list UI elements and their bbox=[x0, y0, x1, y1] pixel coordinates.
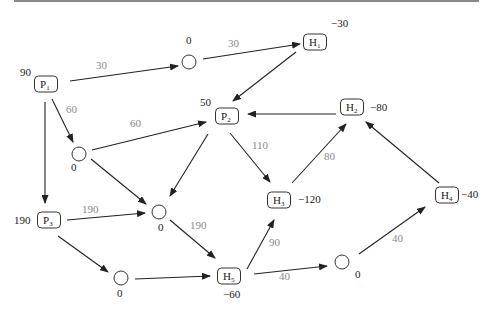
edge-t5-h4 bbox=[359, 207, 425, 254]
edge-label: 40 bbox=[392, 232, 404, 244]
transshipment-circle-icon bbox=[335, 255, 349, 269]
node-value: 0 bbox=[355, 268, 361, 280]
node-value: 0 bbox=[117, 287, 123, 299]
transshipment-circle-icon bbox=[152, 205, 166, 219]
node-p2: P250 bbox=[200, 96, 239, 124]
edge-label: 60 bbox=[66, 103, 78, 115]
node-h5: H5−60 bbox=[218, 268, 241, 300]
edge-label: 60 bbox=[130, 117, 142, 129]
edge-p3-t4 bbox=[58, 236, 108, 272]
node-t2: 0 bbox=[71, 147, 86, 173]
edge-label: 30 bbox=[96, 59, 108, 71]
node-value: −80 bbox=[370, 101, 388, 113]
transshipment-circle-icon bbox=[182, 55, 196, 69]
node-value: 50 bbox=[200, 96, 212, 108]
edge-h5-t5 bbox=[254, 266, 327, 274]
node-value: −40 bbox=[461, 188, 479, 200]
node-t1: 0 bbox=[182, 34, 196, 69]
edge-h4-h2 bbox=[366, 122, 439, 183]
edge-label: 190 bbox=[82, 203, 99, 215]
edge-t4-h5 bbox=[135, 276, 210, 279]
edge-t2-p2 bbox=[92, 122, 206, 150]
edge-p3-t3 bbox=[67, 213, 145, 220]
node-h2: H2−80 bbox=[341, 99, 388, 115]
edge-label: 110 bbox=[252, 139, 269, 151]
node-t3: 0 bbox=[152, 205, 166, 233]
node-p3: P3190 bbox=[14, 212, 61, 228]
edge-label: 190 bbox=[190, 219, 207, 231]
node-value: 0 bbox=[158, 221, 164, 233]
transshipment-circle-icon bbox=[114, 271, 128, 285]
edge-p2-t3 bbox=[170, 134, 208, 196]
edge-t1-h1 bbox=[203, 44, 300, 59]
edge-label: 80 bbox=[324, 150, 336, 162]
node-value: 0 bbox=[71, 161, 77, 173]
edge-label: 40 bbox=[279, 270, 291, 282]
node-value: −60 bbox=[223, 288, 241, 300]
edge-h3-h2 bbox=[292, 124, 346, 183]
node-t5: 0 bbox=[335, 255, 361, 280]
node-value: 90 bbox=[20, 66, 32, 78]
node-value: 0 bbox=[186, 34, 192, 46]
edge-p1-t1 bbox=[70, 66, 178, 81]
edges: 3030606011080190190904040 bbox=[45, 37, 439, 282]
node-h4: H4−40 bbox=[436, 187, 479, 203]
edge-h1-p2 bbox=[233, 52, 296, 101]
node-value: −120 bbox=[298, 193, 321, 205]
node-h1: H1−30 bbox=[304, 17, 349, 50]
edge-label: 30 bbox=[228, 37, 240, 49]
transshipment-circle-icon bbox=[72, 147, 86, 161]
node-t4: 0 bbox=[114, 271, 128, 299]
edge-t2-t3 bbox=[91, 159, 146, 204]
edge-label: 90 bbox=[269, 236, 281, 248]
node-p1: P190 bbox=[20, 66, 58, 92]
node-h3: H3−120 bbox=[268, 192, 322, 208]
flow-diagram: 3030606011080190190904040 P190P250P3190H… bbox=[0, 0, 492, 316]
node-value: −30 bbox=[331, 17, 349, 29]
node-value: 190 bbox=[14, 214, 31, 226]
